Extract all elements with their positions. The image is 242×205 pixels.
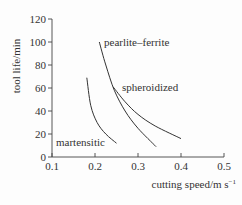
tool-life-chart: 0204060801001200.10.20.30.40.5 pearlite–… xyxy=(0,0,242,205)
x-axis-label: cutting speed/m s−1 xyxy=(152,178,237,190)
series-label-pearlite-ferrite: pearlite–ferrite xyxy=(104,36,169,48)
y-tick-label: 40 xyxy=(35,105,47,117)
series-label-spheroidized: spheroidized xyxy=(122,81,179,93)
x-tick-label: 0.5 xyxy=(217,160,231,172)
y-tick-label: 60 xyxy=(35,82,47,94)
curve-martensitic xyxy=(87,78,117,144)
y-tick-label: 20 xyxy=(35,128,47,140)
x-tick-label: 0.1 xyxy=(45,160,59,172)
y-tick-label: 80 xyxy=(35,59,47,71)
y-axis-label: tool life/min xyxy=(10,38,22,93)
y-tick-label: 120 xyxy=(30,13,47,25)
x-tick-label: 0.4 xyxy=(174,160,188,172)
curve-spheroidized xyxy=(113,87,181,139)
curves xyxy=(87,42,181,147)
x-axis-label-text: cutting speed/m s xyxy=(152,178,229,190)
x-axis-label-exponent: −1 xyxy=(229,178,237,186)
x-tick-label: 0.2 xyxy=(88,160,102,172)
series-label-martensitic: martensitic xyxy=(56,136,105,148)
y-tick-label: 100 xyxy=(30,36,47,48)
x-tick-label: 0.3 xyxy=(131,160,145,172)
curve-pearlite-ferrite xyxy=(99,42,156,147)
